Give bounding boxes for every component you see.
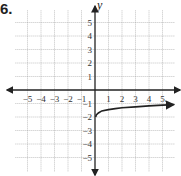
y-tick-label: −1 bbox=[82, 99, 92, 109]
y-tick-label: −4 bbox=[82, 139, 92, 149]
y-tick-label: −5 bbox=[82, 153, 92, 163]
y-tick-label: 4 bbox=[88, 31, 93, 41]
x-tick-label: −3 bbox=[50, 94, 60, 104]
y-tick-label: 2 bbox=[88, 58, 93, 68]
y-tick-label: 5 bbox=[88, 18, 93, 28]
axes: xy bbox=[7, 0, 181, 175]
y-tick-label: 1 bbox=[88, 72, 93, 82]
x-tick-label: 3 bbox=[133, 94, 138, 104]
y-axis-label: y bbox=[96, 0, 103, 12]
y-tick-label: −2 bbox=[82, 112, 92, 122]
graph: xy −5−4−3−2−11234554321−1−2−3−4−5 bbox=[0, 0, 181, 176]
function-curve bbox=[96, 105, 174, 117]
x-tick-label: 4 bbox=[147, 94, 152, 104]
curve bbox=[96, 105, 174, 117]
x-tick-label: 1 bbox=[106, 94, 111, 104]
y-tick-label: −3 bbox=[82, 126, 92, 136]
x-tick-label: 2 bbox=[120, 94, 125, 104]
x-tick-label: −4 bbox=[36, 94, 46, 104]
y-tick-label: 3 bbox=[88, 45, 93, 55]
x-tick-label: −5 bbox=[23, 94, 33, 104]
x-tick-label: −2 bbox=[63, 94, 73, 104]
x-tick-label: 5 bbox=[160, 94, 165, 104]
